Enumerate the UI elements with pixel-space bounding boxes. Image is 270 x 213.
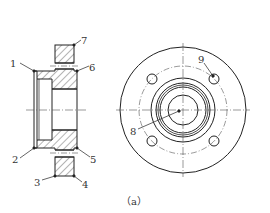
label-2: 2 <box>12 154 18 165</box>
label-8: 8 <box>130 126 136 137</box>
bolt-hole <box>147 74 157 84</box>
flange-drawing: 1 2 3 4 5 6 7 8 9 （a） <box>0 0 270 213</box>
label-6: 6 <box>89 62 95 73</box>
label-4: 4 <box>82 179 88 190</box>
top-flange-section <box>55 45 74 63</box>
label-7: 7 <box>81 35 87 46</box>
figure-caption: （a） <box>121 196 147 207</box>
bottom-flange-section <box>55 157 74 176</box>
label-3: 3 <box>34 177 40 188</box>
label-5: 5 <box>90 154 96 165</box>
upper-body-section <box>34 69 77 89</box>
front-labels: 8 9 <box>130 54 204 137</box>
front-view <box>116 43 250 177</box>
lower-body-section <box>34 130 77 150</box>
label-1: 1 <box>10 58 16 69</box>
section-view <box>26 45 86 176</box>
section-labels: 1 2 3 4 5 6 7 <box>10 35 96 190</box>
label-9: 9 <box>198 54 204 65</box>
front-leaders <box>138 63 214 129</box>
